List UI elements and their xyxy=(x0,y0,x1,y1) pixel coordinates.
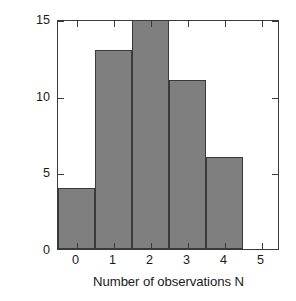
x-axis-tick-label: 5 xyxy=(248,253,274,267)
x-axis-tick-mark xyxy=(225,243,226,249)
x-axis-tick-label: 2 xyxy=(137,253,163,267)
x-axis-tick-mark xyxy=(114,243,115,249)
y-axis-tick-mark xyxy=(272,98,278,99)
x-axis-tick-mark xyxy=(262,243,263,249)
x-axis-tick-label: 0 xyxy=(63,253,89,267)
x-axis-tick-mark xyxy=(77,21,78,27)
histogram-bar xyxy=(169,80,206,249)
x-axis-tick-labels: 012345 xyxy=(57,253,279,271)
y-axis-tick-mark xyxy=(272,21,278,22)
histogram-bar xyxy=(132,21,169,249)
x-axis-tick-label: 1 xyxy=(100,253,126,267)
y-axis-tick-label: 0 xyxy=(4,243,50,257)
plot-area xyxy=(57,20,279,250)
histogram-figure: Subareas with N observations 051015 0123… xyxy=(0,0,296,301)
y-axis-tick-label: 10 xyxy=(4,90,50,104)
x-axis-tick-mark xyxy=(225,21,226,27)
histogram-bar xyxy=(58,188,95,249)
x-axis-tick-mark xyxy=(262,21,263,27)
x-axis-tick-mark xyxy=(151,243,152,249)
y-axis-tick-mark xyxy=(58,174,64,175)
x-axis-tick-label: 3 xyxy=(174,253,200,267)
x-axis-tick-label: 4 xyxy=(211,253,237,267)
x-axis-tick-mark xyxy=(151,21,152,27)
y-axis-tick-mark xyxy=(58,98,64,99)
y-axis-tick-mark xyxy=(272,174,278,175)
histogram-bar xyxy=(206,157,243,249)
y-axis-tick-mark xyxy=(58,21,64,22)
x-axis-label: Number of observations N xyxy=(57,274,280,289)
x-axis-tick-mark xyxy=(188,243,189,249)
y-axis-tick-label: 15 xyxy=(4,13,50,27)
histogram-bar xyxy=(95,50,132,249)
x-axis-tick-mark xyxy=(77,243,78,249)
x-axis-tick-mark xyxy=(114,21,115,27)
x-axis-tick-mark xyxy=(188,21,189,27)
y-axis-tick-label: 5 xyxy=(4,166,50,180)
y-axis-tick-labels: 051015 xyxy=(4,20,50,250)
plot-inner xyxy=(58,21,278,249)
